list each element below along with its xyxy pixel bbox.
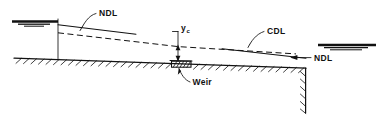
yc-label-subscript: c [187, 28, 191, 34]
yc-label: y c [181, 23, 191, 34]
downstream-water-surface-symbol [318, 45, 376, 50]
weir-leader [178, 68, 190, 82]
downstream-drop-wall [300, 68, 305, 113]
diagram-canvas: NDL CDL y c [0, 0, 383, 123]
cdl-leader [248, 32, 264, 48]
ndl-downstream-leader [290, 55, 311, 60]
ndl-upstream-line [58, 25, 136, 34]
cdl-line [58, 33, 296, 54]
hydraulic-profile-diagram: NDL CDL y c [0, 0, 383, 123]
yc-label-main: y [181, 23, 186, 33]
ndl-downstream-label: NDL [314, 53, 332, 63]
upstream-water-surface-symbol [12, 22, 58, 27]
weir-label: Weir [193, 77, 213, 87]
cdl-label: CDL [267, 26, 285, 36]
ndl-upstream-label: NDL [99, 8, 117, 18]
ground-hatching [16, 58, 304, 72]
